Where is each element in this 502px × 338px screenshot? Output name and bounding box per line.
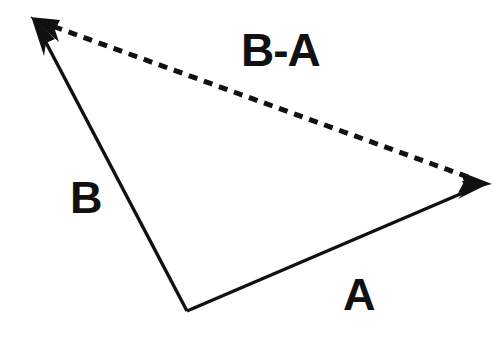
- vector-b-group: [31, 16, 187, 311]
- vector-a-shaft: [187, 189, 472, 311]
- vector-b-minus-a-label: B-A: [241, 27, 320, 73]
- vector-b-shaft: [42, 35, 187, 311]
- vector-a-label: A: [343, 272, 376, 317]
- vector-a-group: [187, 181, 490, 311]
- vector-b-label: B: [70, 175, 103, 220]
- diagram-canvas: A B B-A: [0, 0, 502, 338]
